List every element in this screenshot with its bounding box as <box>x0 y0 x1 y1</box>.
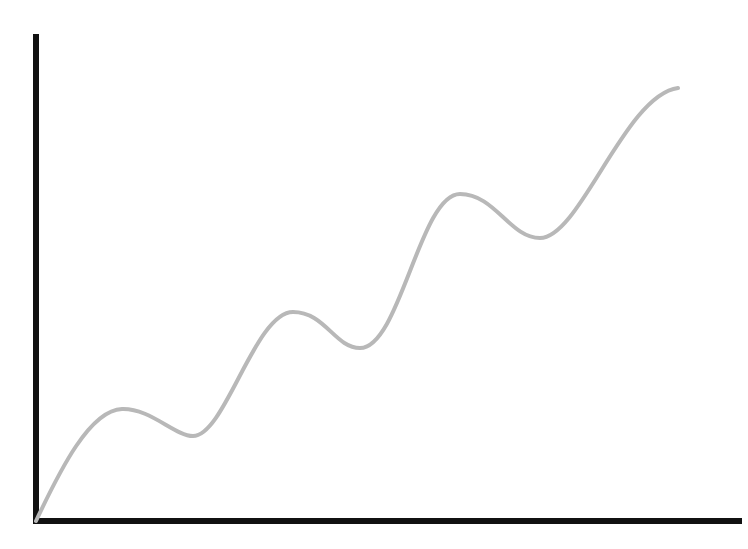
data-line <box>36 88 678 521</box>
line-chart <box>0 0 748 549</box>
